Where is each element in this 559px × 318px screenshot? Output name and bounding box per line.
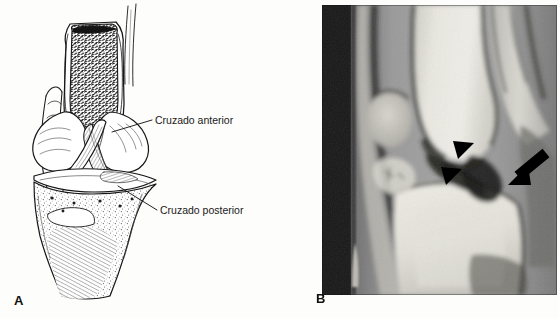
- illustration-ink: [33, 4, 157, 299]
- posterior-cruciate-label: Cruzado posterior: [160, 205, 243, 216]
- panel-a-illustration: Cruzado anterior Cruzado posterior: [0, 0, 310, 318]
- panel-a-letter: A: [14, 294, 23, 307]
- panel-b-letter: B: [316, 292, 325, 305]
- mri-image-svg: [322, 5, 557, 295]
- mri-anatomy: [322, 5, 557, 295]
- figure-container: Cruzado anterior Cruzado posterior A: [0, 0, 559, 318]
- panel-b-mri: [322, 5, 557, 295]
- anterior-cruciate-label: Cruzado anterior: [155, 115, 233, 126]
- knee-illustration-svg: [0, 0, 310, 318]
